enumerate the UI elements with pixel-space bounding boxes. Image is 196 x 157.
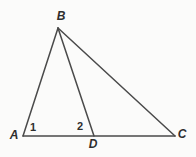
vertex-label-c: C: [178, 128, 187, 140]
vertex-label-a: A: [10, 129, 19, 141]
segment-ab: [23, 28, 58, 136]
angle-label-2: 2: [77, 121, 83, 132]
geometry-figure: A B C D 1 2: [0, 0, 196, 157]
vertex-label-b: B: [57, 10, 66, 22]
angle-label-1: 1: [30, 122, 36, 133]
vertex-label-d: D: [89, 138, 98, 150]
triangle-diagram: [0, 0, 196, 157]
